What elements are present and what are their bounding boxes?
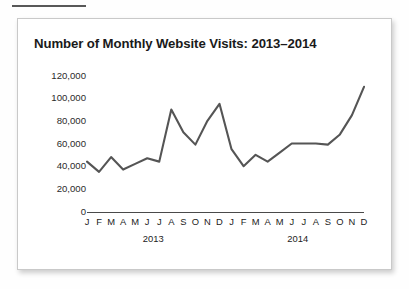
x-month-label: D (357, 215, 371, 228)
figure-card: Number of Monthly Website Visits: 2013–2… (17, 18, 392, 270)
x-year-label: 2014 (278, 232, 318, 245)
x-axis-year-labels: 20132014 (87, 232, 364, 246)
website-visits-line (87, 87, 364, 172)
top-divider-rule (12, 5, 86, 7)
page-root: Number of Monthly Website Visits: 2013–2… (0, 0, 409, 289)
plot-area: 120,000100,00080,00060,00040,00020,0000 … (18, 19, 393, 271)
x-year-label: 2013 (133, 232, 173, 245)
x-axis-month-labels: JFMAMJJASONDJFMAMJJASOND (87, 215, 364, 229)
x-axis-line (87, 212, 364, 214)
